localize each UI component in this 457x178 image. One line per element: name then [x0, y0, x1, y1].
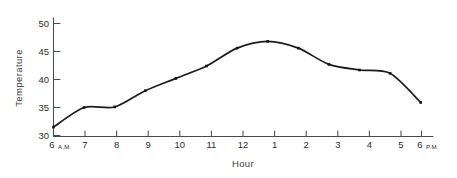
data-point-6 P.M. — [419, 101, 422, 104]
y-tick-label-35: 35 — [38, 102, 49, 113]
x-tick-label-9: 3 — [335, 139, 340, 150]
x-tick-label-8: 2 — [304, 139, 309, 150]
data-point-3 — [328, 63, 331, 66]
x-tick-label-2: 8 — [114, 139, 119, 150]
data-point-2 — [297, 47, 300, 50]
y-tick-label-30: 30 — [38, 130, 49, 141]
x-tick-label-0: 6 — [49, 139, 54, 150]
x-tick-label-3: 9 — [146, 139, 151, 150]
x-tick-label-7: 1 — [272, 139, 277, 150]
temperature-line — [54, 41, 421, 127]
x-tick-label-5: 11 — [206, 139, 216, 150]
data-point-12 — [236, 47, 239, 50]
data-point-9 — [144, 89, 147, 92]
x-axis-title: Hour — [232, 158, 254, 169]
y-tick-label-50: 50 — [38, 18, 49, 29]
x-tick-label-12: 6 — [417, 139, 422, 150]
x-tick-label-6: 12 — [238, 139, 249, 150]
x-axis-ticks — [54, 131, 422, 137]
x-tick-label-12-suffix: P.M. — [426, 143, 439, 150]
data-point-4 — [358, 69, 361, 72]
data-point-markers — [52, 40, 422, 128]
x-tick-label-11: 5 — [398, 139, 403, 150]
y-axis-ticks — [54, 24, 61, 136]
data-point-5 — [389, 72, 392, 75]
data-point-8 — [113, 106, 116, 109]
temperature-vs-hour-chart: 50 45 40 35 30 6 A.M. 7 8 — [0, 0, 457, 178]
data-point-11 — [205, 65, 208, 68]
chart-canvas: 50 45 40 35 30 6 A.M. 7 8 — [0, 0, 457, 178]
x-tick-label-0-suffix: A.M. — [58, 143, 72, 150]
x-tick-label-4: 10 — [175, 139, 186, 150]
x-axis-tick-labels: 6 A.M. 7 8 9 10 11 12 1 2 3 4 5 6 P.M. — [49, 139, 438, 150]
data-point-1 — [266, 40, 269, 43]
data-point-10 — [175, 77, 178, 80]
y-tick-label-45: 45 — [38, 46, 49, 57]
x-tick-label-1: 7 — [82, 139, 87, 150]
data-point-6 A.M. — [52, 126, 55, 129]
y-axis-title: Temperature — [13, 49, 24, 107]
y-axis-tick-labels: 50 45 40 35 30 — [38, 18, 49, 141]
data-point-7 — [83, 106, 86, 109]
y-tick-label-40: 40 — [38, 74, 49, 85]
x-tick-label-10: 4 — [367, 139, 372, 150]
